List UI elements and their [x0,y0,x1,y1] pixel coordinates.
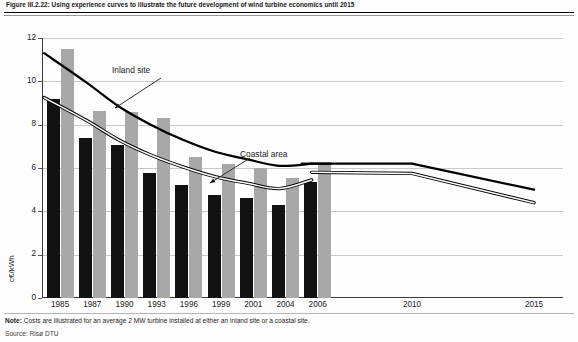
bar-coastal [272,205,285,298]
y-tick-label: 6 [10,163,36,172]
y-axis-label: c€/kWh [7,255,16,282]
figure-note: Note: Costs are illustrated for an avera… [5,317,310,324]
bar-coastal [111,145,124,298]
y-tick-label: 2 [10,249,36,258]
bar-coastal [175,185,188,298]
x-tick-label-projection: 2010 [392,300,432,309]
bar-inland [61,49,74,298]
bar-inland [318,164,331,298]
bar-inland [254,168,267,298]
x-tick-label-projection: 2015 [514,300,554,309]
y-tick-label: 4 [10,206,36,215]
title-rule [4,12,574,13]
note-label: Note: [5,317,22,324]
bar-inland [189,157,202,298]
bar-inland [93,111,106,298]
bar-coastal [47,99,60,298]
figure-title: Figure III.2.22: Using experience curves… [0,0,578,10]
y-tick-label: 10 [10,76,36,85]
y-tick-label: 12 [10,33,36,42]
bars-layer [42,38,563,298]
annotation-inland-site: Inland site [112,65,150,75]
x-tick-label: 2006 [298,300,338,309]
bar-inland [222,164,235,298]
y-tick-label: 0 [10,293,36,302]
bar-coastal [143,173,156,298]
note-text: Costs are illustrated for an average 2 M… [22,317,310,324]
bar-inland [125,112,138,298]
figure-container: Figure III.2.22: Using experience curves… [0,0,578,342]
annotation-coastal-area: Coastal area [240,149,288,159]
bar-inland [286,178,299,298]
bar-coastal [208,195,221,298]
y-tick-mark [38,298,42,299]
footer-rule [4,313,574,314]
bar-coastal [304,182,317,298]
bar-coastal [240,198,253,298]
figure-source: Source: Risø DTU [5,330,59,337]
bar-coastal [79,138,92,298]
y-tick-label: 8 [10,119,36,128]
title-rule-secondary [4,15,574,16]
bar-inland [157,118,170,298]
